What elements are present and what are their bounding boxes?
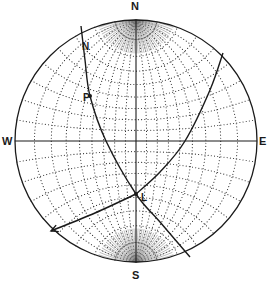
plane-N-label: N (82, 41, 89, 52)
annotations: NPL (82, 41, 147, 203)
point-L-label: L (141, 192, 147, 203)
north-label: N (131, 0, 139, 12)
south-label: S (132, 269, 139, 281)
point-L-dot (134, 192, 138, 196)
arrow-line (51, 194, 136, 231)
west-label: W (2, 135, 13, 147)
stereonet-diagram: NPL N S W E (0, 0, 270, 281)
plane-2-great-circle (136, 53, 223, 194)
point-P-dot (88, 94, 92, 98)
east-label: E (259, 135, 266, 147)
trend-arrow (51, 194, 136, 232)
